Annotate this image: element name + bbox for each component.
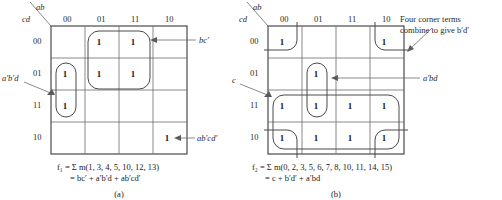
map-a-caption: (a) <box>114 189 124 199</box>
map-a-col-header-1: 01 <box>97 14 106 24</box>
map-b-row-header-3: 10 <box>250 132 259 142</box>
map-a-col-header-3: 10 <box>165 14 174 24</box>
map-b: ab cd 00 01 11 10 00 01 11 10 1 1 1 1 1 … <box>232 2 469 199</box>
map-a-cell-r0c1: 1 <box>97 37 102 47</box>
map-b-annotation-four-corner-line1: Four corner terms <box>400 14 461 24</box>
map-a-cell-r2c0: 1 <box>63 101 68 111</box>
map-a-leader-a-prime-b-prime-d <box>24 82 55 95</box>
map-a-annotation-a-prime-b-prime-d: a′b′d <box>2 73 19 83</box>
map-a-leader-bc-prime <box>150 37 196 43</box>
karnaugh-map-figure: ab cd 00 01 11 10 00 01 11 10 1 1 1 1 1 … <box>0 0 502 200</box>
map-b-equation-line1: f₂ = Σ m(0, 2, 3, 5, 6, 7, 8, 10, 11, 14… <box>252 162 392 172</box>
map-b-leader-c <box>240 84 272 97</box>
map-b-cell-r3c0: 1 <box>280 133 285 143</box>
map-b-cell-r2c2: 1 <box>348 101 353 111</box>
map-b-cell-r2c0: 1 <box>280 101 285 111</box>
map-a-var-top-label: ab <box>36 2 45 12</box>
map-a-equation-line1: f₁ = Σ m(1, 3, 4, 5, 10, 12, 13) <box>57 162 159 172</box>
map-a-annotation-bc-prime: bc′ <box>199 35 209 45</box>
map-a-row-header-3: 10 <box>33 132 42 142</box>
map-a-col-header-0: 00 <box>63 14 72 24</box>
map-b-annotation-four-corner-line2: combine to give b′d′ <box>400 25 469 35</box>
map-a-equation-line2: = bc′ + a′b′d + ab′cd′ <box>70 173 141 183</box>
map-b-annotation-c: c <box>232 75 236 85</box>
map-a-row-header-2: 11 <box>33 100 41 110</box>
map-b-row-header-1: 01 <box>250 68 259 78</box>
map-a-cell-r3c3: 1 <box>165 133 170 143</box>
map-b-cell-r3c2: 1 <box>348 133 353 143</box>
map-a-cell-r0c2: 1 <box>131 37 136 47</box>
map-a-row-header-0: 00 <box>33 36 42 46</box>
map-b-cell-r1c1: 1 <box>314 69 319 79</box>
map-a-cell-r1c0: 1 <box>63 69 68 79</box>
map-a-col-header-2: 11 <box>131 14 139 24</box>
map-b-equation-line2: = c + b′d′ + a′bd <box>265 173 321 183</box>
map-b-col-header-0: 00 <box>280 14 289 24</box>
map-b-cell-r0c3: 1 <box>382 37 387 47</box>
map-a-annotation-ab-prime-cd-prime: ab′cd′ <box>197 133 217 143</box>
map-b-leader-a-prime-bd <box>331 75 420 81</box>
map-b-cell-r3c1: 1 <box>314 133 319 143</box>
map-a-var-left-label: cd <box>22 14 31 24</box>
map-a: ab cd 00 01 11 10 00 01 11 10 1 1 1 1 1 … <box>2 2 217 199</box>
map-a-leader-ab-prime-cd-prime <box>174 135 195 141</box>
map-a-cell-r1c2: 1 <box>131 69 136 79</box>
map-b-col-header-2: 11 <box>348 14 356 24</box>
map-b-caption: (b) <box>331 189 341 199</box>
map-b-cell-r2c3: 1 <box>382 101 387 111</box>
map-b-col-header-3: 10 <box>382 14 391 24</box>
map-b-row-header-2: 11 <box>250 100 258 110</box>
map-b-row-header-0: 00 <box>250 36 259 46</box>
map-a-row-header-1: 01 <box>33 68 42 78</box>
map-b-var-top-label: ab <box>253 2 262 12</box>
map-b-annotation-a-prime-bd: a′bd <box>423 73 438 83</box>
map-b-cell-r0c0: 1 <box>280 37 285 47</box>
map-b-var-left-label: cd <box>239 14 248 24</box>
map-b-cell-r3c3: 1 <box>382 133 387 143</box>
map-b-col-header-1: 01 <box>314 14 323 24</box>
map-b-cell-r2c1: 1 <box>314 101 319 111</box>
map-a-cell-r1c1: 1 <box>97 69 102 79</box>
